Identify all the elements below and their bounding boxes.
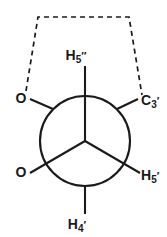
back-bond-upper-right (117, 99, 138, 109)
atom-label-h4-prime: H4′ (68, 216, 87, 234)
atom-label-c3-prime: C3′ (141, 92, 160, 110)
atom-label-h5p-base: H (141, 167, 151, 183)
atom-label-h5-prime: H5′ (141, 167, 160, 185)
atom-label-h4p-base: H (68, 216, 78, 232)
atom-label-c3p-prime: ′ (157, 95, 160, 107)
front-bond-lower-left (30, 141, 85, 173)
atom-label-o-upper-base: O (16, 90, 27, 106)
newman-projection-figure: H5″ C3′ H5′ H4′ O O (0, 0, 167, 237)
atom-label-h5pp-prime: ″ (81, 50, 87, 62)
newman-projection-canvas: H5″ C3′ H5′ H4′ O O (0, 0, 167, 237)
atom-label-o-lower-base: O (16, 164, 27, 180)
atom-label-h5-double-prime: H5″ (66, 47, 88, 65)
front-bond-lower-right (85, 141, 140, 173)
atom-label-h5p-prime: ′ (157, 170, 160, 182)
atom-label-h4p-prime: ′ (84, 219, 87, 231)
atom-label-c3p-base: C (141, 92, 151, 108)
atom-label-h5pp-base: H (66, 47, 76, 63)
atom-label-o-upper: O (16, 90, 27, 106)
back-bond-upper-left (30, 99, 53, 109)
atom-label-o-lower: O (16, 164, 27, 180)
